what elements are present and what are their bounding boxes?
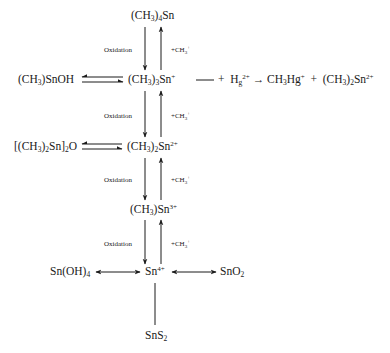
charge: +: [187, 45, 190, 50]
methylation-label-1: +CH3+: [171, 47, 190, 55]
text: +CH: [171, 240, 185, 248]
subscript: 4: [86, 270, 90, 279]
subscript: 2: [240, 270, 244, 279]
charge: +: [171, 73, 175, 81]
oxidation-label-2: Oxidation: [104, 113, 132, 120]
charge: +: [301, 73, 305, 81]
node-methyltin: (CH3)Sn3+: [130, 204, 177, 216]
oxidation-label-4: Oxidation: [104, 241, 132, 248]
oxidation-label-1: Oxidation: [104, 47, 132, 54]
text: +CH: [171, 112, 185, 120]
text: +CH: [171, 176, 185, 184]
text: Sn(OH): [50, 265, 86, 277]
text: Sn: [158, 140, 170, 152]
node-trimethyltin: (CH3)3Sn+: [128, 74, 175, 86]
oxidation-label-3: Oxidation: [104, 177, 132, 184]
text: (CH: [18, 73, 38, 85]
node-dimethyltin-oxide: [(CH3)2Sn]2O: [14, 141, 77, 153]
text: CH: [267, 73, 283, 85]
charge: 2+: [242, 73, 249, 81]
methylation-label-2: +CH3+: [171, 113, 190, 121]
charge: +: [187, 239, 190, 244]
text: Sn: [145, 265, 157, 277]
node-tin-disulfide: SnS2: [145, 330, 167, 342]
text: (CH: [130, 203, 150, 215]
node-dimethyltin: (CH3)2Sn2+: [127, 141, 178, 153]
charge: +: [187, 175, 190, 180]
text: SnO: [220, 265, 240, 277]
node-methyltin-hydroxide: (CH3)SnOH: [18, 74, 74, 86]
text: [(CH: [14, 140, 38, 152]
reaction-arrow: →: [253, 73, 265, 85]
text: (CH: [128, 73, 148, 85]
text: Sn: [159, 73, 171, 85]
charge: +: [187, 111, 190, 116]
text: (CH: [323, 73, 343, 85]
text: Hg: [287, 73, 301, 85]
subscript: 3: [185, 244, 188, 249]
subscript: 3: [185, 116, 188, 121]
node-tin-ion: Sn4+: [145, 266, 165, 278]
mercury-reaction: + Hg2+ → CH3Hg+ + (CH3)2Sn2+: [218, 74, 374, 86]
charge: 4+: [157, 265, 164, 273]
plus-sign: +: [218, 73, 225, 85]
charge: 3+: [170, 203, 177, 211]
text: O: [69, 140, 77, 152]
arrow-layer: [0, 0, 390, 353]
text: )SnOH: [42, 73, 75, 85]
subscript: 3: [185, 180, 188, 185]
plus-sign: +: [311, 73, 318, 85]
node-tin-hydroxide: Sn(OH)4: [50, 266, 90, 278]
text: H: [230, 73, 238, 85]
text: Sn: [162, 9, 174, 21]
charge: 2+: [170, 140, 177, 148]
methylation-label-4: +CH3+: [171, 241, 190, 249]
text: (CH: [127, 140, 147, 152]
text: SnS: [145, 329, 164, 341]
text: +CH: [171, 46, 185, 54]
text: (CH: [131, 9, 151, 21]
node-tetramethyltin: (CH3)4Sn: [131, 10, 174, 22]
charge: 2+: [366, 73, 373, 81]
text: )Sn: [154, 203, 170, 215]
node-tin-dioxide: SnO2: [220, 266, 244, 278]
subscript: 3: [185, 50, 188, 55]
text: Sn]: [49, 140, 65, 152]
subscript: 2: [164, 334, 168, 343]
methylation-label-3: +CH3+: [171, 177, 190, 185]
text: Sn: [354, 73, 366, 85]
